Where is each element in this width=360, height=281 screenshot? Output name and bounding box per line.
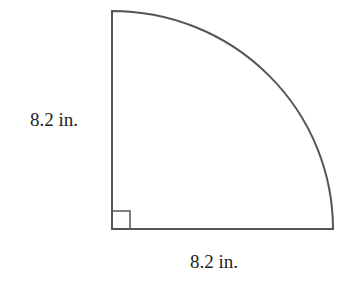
quarter-circle-diagram <box>0 0 360 281</box>
vertical-radius-label: 8.2 in. <box>30 110 78 129</box>
right-angle-marker <box>112 211 130 229</box>
quarter-circle-shape <box>112 11 333 229</box>
horizontal-radius-label: 8.2 in. <box>190 252 238 271</box>
